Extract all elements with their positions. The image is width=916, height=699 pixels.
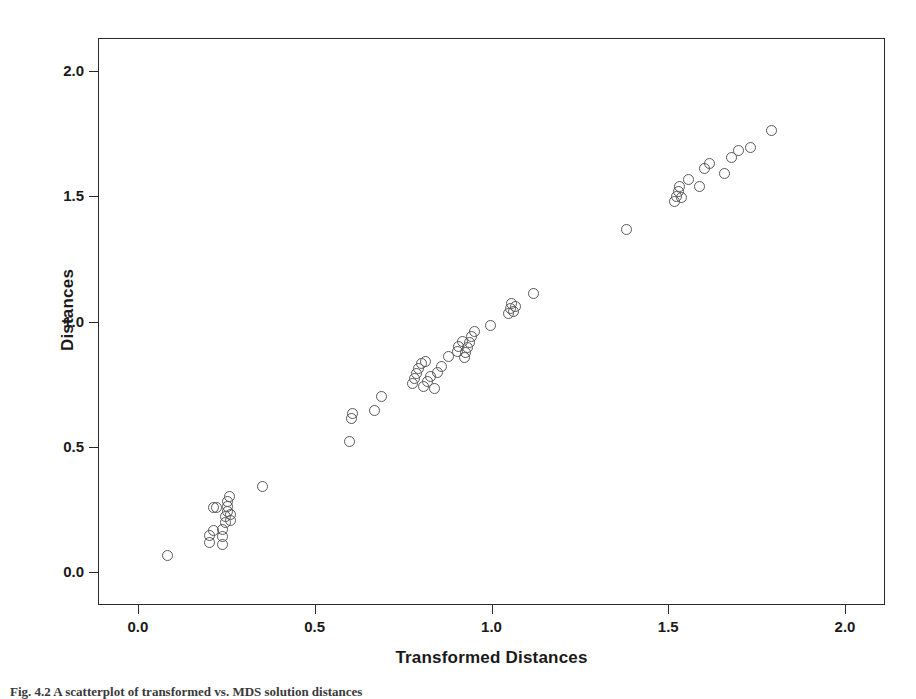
data-point (704, 158, 715, 169)
data-point (694, 181, 705, 192)
data-point (436, 361, 447, 372)
scatter-plot-figure: Distances 0.00.51.01.52.0 0.00.51.01.52.… (0, 0, 916, 699)
data-point (224, 491, 235, 502)
y-tick-label: 0.5 (44, 438, 84, 455)
x-tick-mark (492, 605, 493, 614)
x-tick-mark (138, 605, 139, 614)
y-axis-title: Distances (58, 220, 78, 400)
data-point (257, 481, 268, 492)
data-points-layer (99, 39, 884, 604)
x-tick-mark (315, 605, 316, 614)
figure-caption: Fig. 4.2 A scatterplot of transformed vs… (10, 684, 910, 699)
x-tick-mark (845, 605, 846, 614)
data-point (510, 301, 521, 312)
data-point (485, 320, 496, 331)
plot-area (98, 38, 885, 605)
y-tick-mark (89, 71, 98, 72)
data-point (621, 224, 632, 235)
y-tick-label: 1.0 (44, 313, 84, 330)
y-tick-label: 1.5 (44, 187, 84, 204)
y-tick-mark (89, 447, 98, 448)
y-tick-mark (89, 322, 98, 323)
x-tick-label: 1.5 (643, 618, 693, 635)
x-tick-label: 1.0 (467, 618, 517, 635)
data-point (528, 288, 539, 299)
x-tick-label: 0.0 (113, 618, 163, 635)
data-point (766, 125, 777, 136)
data-point (683, 174, 694, 185)
data-point (676, 192, 687, 203)
data-point (733, 145, 744, 156)
x-tick-label: 0.5 (290, 618, 340, 635)
x-tick-label: 2.0 (820, 618, 870, 635)
data-point (225, 509, 236, 520)
y-tick-mark (89, 572, 98, 573)
data-point (376, 391, 387, 402)
y-tick-mark (89, 196, 98, 197)
data-point (469, 326, 480, 337)
x-tick-mark (668, 605, 669, 614)
data-point (347, 408, 358, 419)
data-point (344, 436, 355, 447)
data-point (162, 550, 173, 561)
data-point (420, 356, 431, 367)
data-point (745, 142, 756, 153)
data-point (429, 383, 440, 394)
data-point (719, 168, 730, 179)
x-axis-title: Transformed Distances (98, 648, 885, 668)
y-tick-label: 0.0 (44, 563, 84, 580)
y-tick-label: 2.0 (44, 62, 84, 79)
data-point (369, 405, 380, 416)
